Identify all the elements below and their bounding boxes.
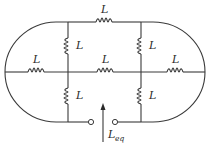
label-leq-subscript: eq xyxy=(115,134,124,143)
label-right-upper-inductor: L xyxy=(148,39,156,52)
label-right-lower-inductor: L xyxy=(148,89,156,102)
terminal-right[interactable] xyxy=(112,119,117,124)
label-middle-right-inductor: L xyxy=(171,53,179,66)
label-leq: L eq xyxy=(107,128,124,143)
label-left-lower-inductor: L xyxy=(75,89,83,102)
top-wire xyxy=(68,18,141,22)
middle-wire xyxy=(5,68,205,72)
label-middle-center-inductor: L xyxy=(101,53,109,66)
label-top-inductor: L xyxy=(100,3,108,16)
terminal-left[interactable] xyxy=(88,119,93,124)
label-left-upper-inductor: L xyxy=(75,39,83,52)
label-middle-left-inductor: L xyxy=(32,53,40,66)
circuit-diagram: L L L L L L L L L eq xyxy=(0,0,210,146)
leq-arrow-icon xyxy=(101,103,106,142)
